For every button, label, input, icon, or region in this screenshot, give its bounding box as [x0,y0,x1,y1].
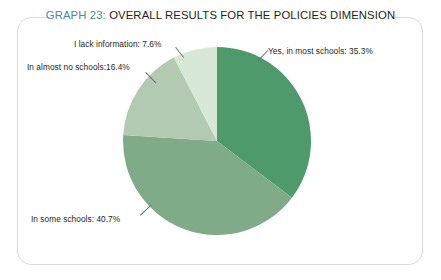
pie-label-i-lack-information: I lack information: 7.6% [74,39,161,49]
pie-label-in-almost-no-schools: In almost no schools:16.4% [27,62,130,72]
pie-chart [122,46,312,236]
graph-number-label: GRAPH 23: [46,9,106,21]
page-title: GRAPH 23: OVERALL RESULTS FOR THE POLICI… [0,9,441,21]
page-title-text: OVERALL RESULTS FOR THE POLICIES DIMENSI… [106,9,395,21]
pie-label-yes-in-most-schools: Yes, in most schools: 35.3% [268,46,373,56]
pie-label-in-some-schools: In some schools: 40.7% [31,214,120,224]
figure-container: GRAPH 23: OVERALL RESULTS FOR THE POLICI… [0,0,441,280]
